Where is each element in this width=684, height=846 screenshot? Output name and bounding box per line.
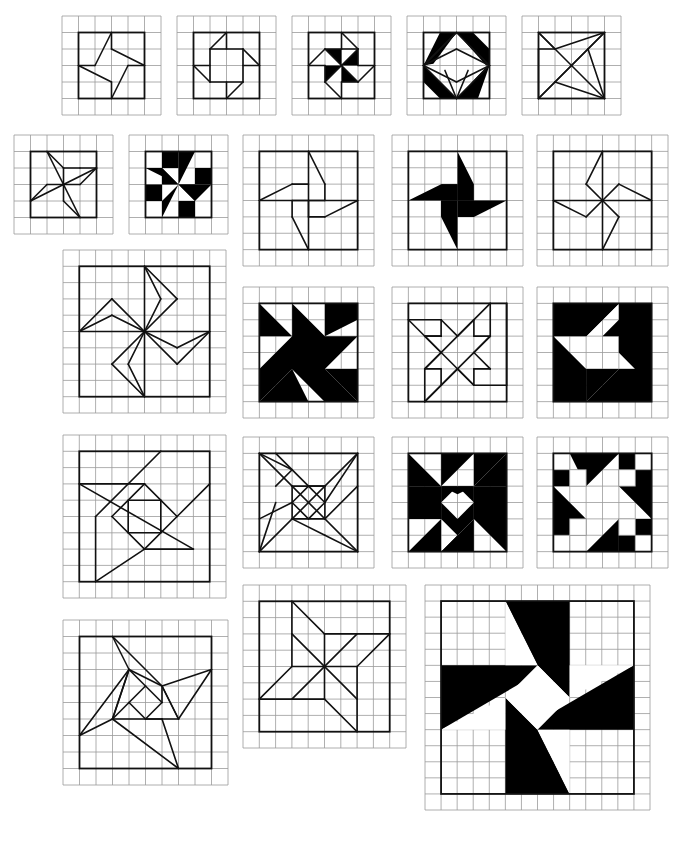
grid-figure-r4-1 (63, 435, 226, 598)
grid-figure-r2-1 (14, 135, 113, 234)
grid-figure-r4-2 (243, 437, 374, 568)
grid-figure-r1-2 (177, 16, 276, 115)
grid-figure-r3-2 (243, 287, 374, 418)
grid-figure-r2-2 (129, 135, 228, 234)
grid-figure-r4-4 (537, 437, 668, 568)
grid-figure-r2-3 (243, 135, 374, 266)
grid-figure-r1-3 (292, 16, 391, 115)
grid-figure-r3-4 (537, 287, 668, 418)
grid-figure-r5-3 (425, 585, 650, 810)
grid-figure-r2-5 (537, 135, 668, 266)
grid-figure-r1-1 (62, 16, 161, 115)
grid-figure-r4-3 (392, 437, 523, 568)
grid-figure-r1-4 (407, 16, 506, 115)
grid-figure-r3-1 (63, 250, 226, 413)
grid-figure-r2-4 (392, 135, 523, 266)
grid-figure-r3-3 (392, 287, 523, 418)
grid-figure-r1-5 (522, 16, 621, 115)
grid-figure-r5-2 (243, 585, 406, 748)
grid-figure-r5-1 (63, 620, 228, 785)
